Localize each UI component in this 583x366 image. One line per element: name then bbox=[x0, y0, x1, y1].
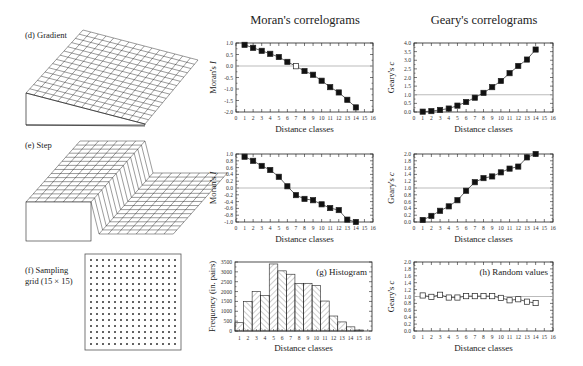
sampling-point bbox=[120, 331, 122, 333]
sampling-point bbox=[168, 265, 170, 267]
y-tick-label: -0.6 bbox=[224, 205, 233, 211]
sampling-point bbox=[162, 319, 164, 321]
data-point bbox=[455, 103, 460, 108]
data-point bbox=[455, 198, 460, 203]
y-tick-label: 3000 bbox=[221, 269, 232, 275]
sampling-point bbox=[138, 325, 140, 327]
y-tick-label: -1.0 bbox=[224, 219, 233, 225]
sampling-point bbox=[120, 265, 122, 267]
y-tick-label: 1.8 bbox=[404, 158, 411, 164]
y-axis-label: Frequency (in. pairs) bbox=[207, 261, 217, 332]
x-tick-label: 15 bbox=[356, 335, 362, 341]
x-tick-label: 11 bbox=[507, 334, 513, 340]
y-tick-label: 3500 bbox=[221, 259, 232, 265]
data-point bbox=[524, 57, 529, 62]
x-tick-label: 16 bbox=[550, 334, 556, 340]
sampling-point bbox=[144, 325, 146, 327]
x-tick-label: 8 bbox=[303, 225, 306, 231]
grid-line bbox=[127, 173, 181, 234]
x-tick-label: 16 bbox=[370, 225, 376, 231]
sampling-point bbox=[144, 319, 146, 321]
sampling-point bbox=[96, 337, 98, 339]
sampling-point bbox=[168, 277, 170, 279]
sampling-point bbox=[114, 265, 116, 267]
x-tick-label: 13 bbox=[524, 115, 530, 121]
sampling-point bbox=[150, 265, 152, 267]
geary-random-chart: 2.01.81.61.41.21.00.80.60.40.20.0Geary's… bbox=[386, 259, 556, 353]
sampling-point bbox=[90, 331, 92, 333]
grid-line bbox=[49, 68, 166, 99]
histogram-bar bbox=[312, 286, 321, 331]
x-tick-label: 9 bbox=[491, 115, 494, 121]
x-tick-label: 3 bbox=[260, 115, 263, 121]
y-tick-label: 0.0 bbox=[226, 185, 233, 191]
x-tick-label: 7 bbox=[473, 115, 476, 121]
x-tick-label: 3 bbox=[439, 225, 442, 231]
x-tick-label: 13 bbox=[524, 225, 530, 231]
y-tick-label: 1500 bbox=[221, 298, 232, 304]
sampling-point bbox=[120, 325, 122, 327]
y-tick-label: 2.5 bbox=[404, 66, 411, 72]
grid-line bbox=[64, 51, 180, 81]
data-point bbox=[328, 85, 333, 90]
data-point bbox=[268, 51, 273, 56]
histogram-bar bbox=[252, 292, 261, 331]
y-tick-label: 2.0 bbox=[404, 151, 411, 157]
data-point bbox=[319, 202, 324, 207]
sampling-point bbox=[174, 337, 176, 339]
gradient-surface bbox=[26, 30, 198, 126]
x-tick-label: 14 bbox=[533, 115, 539, 121]
y-axis-label: Geary's c bbox=[386, 172, 396, 204]
data-point bbox=[251, 158, 256, 163]
x-tick-label: 1 bbox=[238, 335, 241, 341]
grid-line bbox=[42, 34, 98, 97]
sampling-point bbox=[162, 265, 164, 267]
sampling-point bbox=[156, 319, 158, 321]
sampling-point bbox=[90, 259, 92, 261]
data-point bbox=[533, 151, 538, 156]
sampling-point bbox=[90, 283, 92, 285]
sampling-point bbox=[138, 283, 140, 285]
step-face-line bbox=[116, 174, 124, 206]
y-tick-label: 3.0 bbox=[404, 57, 411, 63]
step-face-line bbox=[91, 202, 99, 234]
sampling-point bbox=[168, 301, 170, 303]
y-tick-label: 0.0 bbox=[226, 63, 233, 69]
plot-frame bbox=[236, 43, 373, 112]
y-tick-label: 0.8 bbox=[404, 192, 411, 198]
x-tick-label: 13 bbox=[345, 225, 351, 231]
sampling-point bbox=[90, 319, 92, 321]
panel-label-gradient: (d) Gradient bbox=[25, 30, 67, 40]
sampling-point bbox=[102, 265, 104, 267]
data-point-open bbox=[516, 297, 521, 302]
x-tick-label: 14 bbox=[348, 335, 354, 341]
data-point bbox=[533, 47, 538, 52]
sampling-point bbox=[108, 307, 110, 309]
sampling-point bbox=[102, 307, 104, 309]
sampling-point bbox=[150, 277, 152, 279]
y-tick-label: 0.8 bbox=[404, 300, 411, 306]
x-tick-label: 15 bbox=[362, 115, 368, 121]
x-axis-label: Distance classes bbox=[454, 234, 513, 244]
grid-line bbox=[118, 173, 172, 234]
y-axis-label: Geary's c bbox=[386, 281, 396, 313]
step-face-line bbox=[138, 149, 146, 181]
sampling-point bbox=[90, 301, 92, 303]
sampling-point bbox=[126, 331, 128, 333]
y-tick-label: 1.8 bbox=[404, 266, 411, 272]
data-point bbox=[464, 188, 469, 193]
x-tick-label: 10 bbox=[319, 115, 325, 121]
data-point bbox=[302, 196, 307, 201]
data-point bbox=[336, 90, 341, 95]
sampling-point bbox=[114, 307, 116, 309]
sampling-point bbox=[138, 259, 140, 261]
moran-gradient-chart: 1.00.50.0-0.5-1.0-1.5-2.0Moran's IDistan… bbox=[208, 40, 376, 134]
sampling-point bbox=[96, 289, 98, 291]
sampling-point bbox=[132, 337, 134, 339]
grid-line bbox=[54, 141, 108, 202]
data-point bbox=[345, 97, 350, 102]
y-axis-label: Moran's I bbox=[208, 60, 218, 94]
x-tick-label: 16 bbox=[550, 115, 556, 121]
sampling-point bbox=[162, 343, 164, 345]
x-tick-label: 9 bbox=[306, 335, 309, 341]
